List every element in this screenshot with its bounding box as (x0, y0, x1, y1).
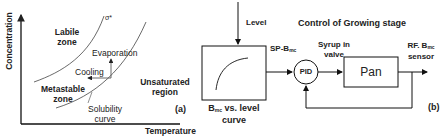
pid-label: PID (294, 67, 318, 77)
sensor-label: RF. Bmc sensor (396, 41, 446, 62)
supersolubility-label: σ* (105, 13, 112, 23)
pan-label: Pan (344, 65, 398, 79)
curve-block-label: Bmc vs. level curve (196, 103, 272, 125)
evaporation-label: Evaporation (92, 48, 137, 58)
labile-zone-label: Labile zone (50, 27, 84, 47)
diagram-title: Control of Growing stage (298, 18, 406, 28)
solubility-curve-label: Solubility curve (82, 104, 128, 124)
metastable-zone-label: Metastable zone (38, 84, 88, 104)
panel-b-tag: (b) (428, 102, 440, 112)
unsaturated-region-label: Unsaturated region (135, 77, 195, 97)
panel-a-tag: (a) (175, 104, 186, 114)
y-axis-label: Concentration (4, 6, 14, 76)
level-label: Level (246, 18, 266, 28)
setpoint-label: SP-Bmc (270, 44, 296, 55)
phase-diagram-panel: Concentration Temperature σ* Labile zone… (0, 0, 200, 136)
x-axis-label: Temperature (145, 126, 196, 136)
bmc-level-curve-block (202, 46, 266, 100)
valve-label: Syrup in valve (312, 40, 356, 60)
control-block-diagram-panel: Level Control of Growing stage SP-Bmc Bm… (200, 0, 446, 136)
cooling-label: Cooling (75, 67, 104, 77)
